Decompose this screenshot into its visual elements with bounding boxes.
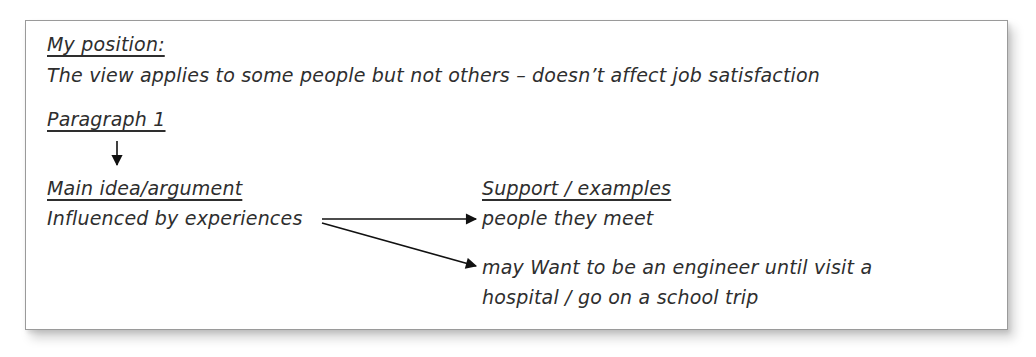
support-heading: Support / examples — [482, 177, 671, 200]
main-idea-text: Influenced by experiences — [47, 207, 303, 230]
support-item-2-line-1: may Want to be an engineer until visit a — [482, 256, 872, 279]
position-heading: My position: — [47, 33, 165, 56]
support-item-1: people they meet — [482, 207, 653, 230]
paragraph-heading: Paragraph 1 — [47, 108, 166, 131]
position-statement: The view applies to some people but not … — [47, 64, 820, 87]
support-item-2-line-2: hospital / go on a school trip — [482, 286, 758, 309]
main-idea-heading: Main idea/argument — [47, 177, 242, 200]
